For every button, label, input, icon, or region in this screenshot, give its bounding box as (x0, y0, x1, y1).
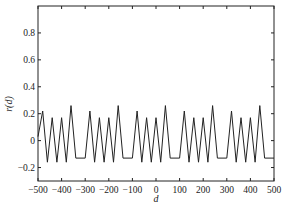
chart: −500−400−300−200−1000100200300400500 −0.… (0, 0, 283, 212)
x-tick-label: −500 (28, 185, 48, 195)
x-axis-label: d (154, 193, 160, 204)
y-tick-label: 0 (30, 136, 35, 146)
x-tick-label: 100 (172, 185, 187, 195)
series-line (38, 106, 274, 163)
y-tick-label: 0.8 (23, 28, 35, 38)
y-tick-label: 0.4 (23, 82, 35, 92)
y-tick-label: 0.6 (23, 55, 35, 65)
axes-frame (38, 6, 274, 181)
y-axis-label: r(d) (3, 96, 15, 112)
x-axis: −500−400−300−200−1000100200300400500 (28, 6, 281, 195)
x-tick-label: 200 (196, 185, 211, 195)
x-tick-label: −100 (123, 185, 143, 195)
x-tick-label: 300 (220, 185, 235, 195)
x-tick-label: 400 (243, 185, 258, 195)
x-tick-label: −300 (75, 185, 95, 195)
x-tick-label: −400 (52, 185, 72, 195)
y-tick-label: −0.2 (18, 163, 35, 173)
x-tick-label: 500 (267, 185, 282, 195)
plot-area (38, 6, 274, 181)
y-tick-label: 0.2 (23, 109, 35, 119)
x-tick-label: −200 (99, 185, 119, 195)
